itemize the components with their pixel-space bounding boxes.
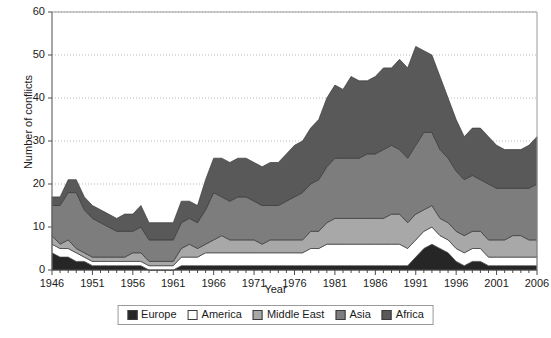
legend-label: America [202, 309, 242, 320]
svg-text:1956: 1956 [121, 277, 145, 289]
svg-text:10: 10 [33, 220, 45, 232]
legend-swatch-icon [382, 310, 392, 320]
svg-text:50: 50 [33, 48, 45, 60]
svg-text:40: 40 [33, 91, 45, 103]
svg-text:1966: 1966 [201, 277, 225, 289]
legend-item-america[interactable]: America [188, 309, 242, 320]
legend-item-middle-east[interactable]: Middle East [253, 309, 324, 320]
svg-text:1951: 1951 [80, 277, 104, 289]
svg-text:1976: 1976 [282, 277, 306, 289]
svg-text:0: 0 [39, 263, 45, 275]
svg-text:30: 30 [33, 134, 45, 146]
legend-item-asia[interactable]: Asia [335, 309, 370, 320]
legend-label: Africa [396, 309, 424, 320]
svg-text:2006: 2006 [525, 277, 549, 289]
svg-text:1971: 1971 [242, 277, 266, 289]
svg-text:1996: 1996 [444, 277, 468, 289]
chart-legend: EuropeAmericaMiddle EastAsiaAfrica [117, 305, 434, 325]
svg-text:60: 60 [33, 5, 45, 17]
stacked-area-chart: 0102030405060194619511956196119661971197… [0, 0, 551, 300]
legend-swatch-icon [127, 310, 137, 320]
svg-text:2001: 2001 [484, 277, 508, 289]
svg-text:1986: 1986 [363, 277, 387, 289]
svg-text:20: 20 [33, 177, 45, 189]
legend-label: Asia [349, 309, 370, 320]
legend-swatch-icon [335, 310, 345, 320]
svg-text:1991: 1991 [404, 277, 428, 289]
svg-text:1961: 1961 [161, 277, 185, 289]
plot-area: 0102030405060194619511956196119661971197… [0, 0, 551, 300]
legend-item-europe[interactable]: Europe [127, 309, 176, 320]
chart-root: Number of conflicts Year 010203040506019… [0, 0, 551, 338]
legend-label: Middle East [267, 309, 324, 320]
legend-swatch-icon [253, 310, 263, 320]
svg-text:1981: 1981 [323, 277, 347, 289]
legend-swatch-icon [188, 310, 198, 320]
legend-item-africa[interactable]: Africa [382, 309, 424, 320]
legend-label: Europe [141, 309, 176, 320]
svg-text:1946: 1946 [40, 277, 64, 289]
